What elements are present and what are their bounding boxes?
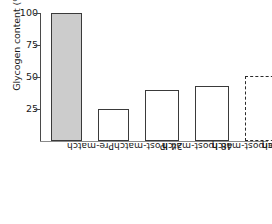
x-label-line2: Cup match: [262, 141, 272, 152]
plot-area: [40, 13, 266, 141]
bar-pre-european-cup-match: [245, 76, 272, 141]
bar-pre-match: [51, 13, 82, 141]
bar-24h-post-match: [145, 90, 179, 141]
glycogen-bar-chart: Glycogen content (%) 100 75 50 25 Pre-ma…: [0, 0, 272, 224]
bar-post-match: [98, 109, 129, 141]
x-axis-category-labels: Pre-match Post-match 24 h post-match 48 …: [40, 146, 272, 224]
x-label-pre-european-cup-match: Pre European Cup match: [224, 146, 272, 222]
bar-48h-post-match: [195, 86, 229, 141]
